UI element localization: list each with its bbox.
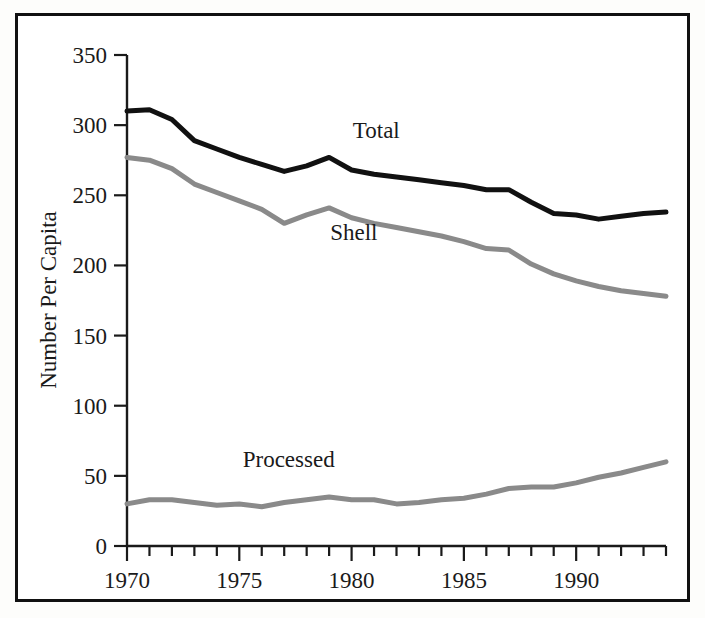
y-tick-label-100: 100 bbox=[73, 394, 108, 419]
y-axis-ticks bbox=[114, 55, 127, 546]
x-tick-label-1975: 1975 bbox=[216, 568, 262, 593]
series-label-shell: Shell bbox=[330, 220, 377, 245]
x-tick-label-1980: 1980 bbox=[329, 568, 375, 593]
line-chart: 050100150200250300350 197019751980198519… bbox=[0, 0, 705, 618]
x-tick-label-1990: 1990 bbox=[553, 568, 599, 593]
y-tick-label-300: 300 bbox=[73, 113, 108, 138]
x-tick-label-1985: 1985 bbox=[441, 568, 487, 593]
series-lines-group bbox=[127, 110, 666, 507]
x-axis-ticks bbox=[127, 546, 666, 561]
y-tick-label-250: 250 bbox=[73, 183, 108, 208]
series-line-processed bbox=[127, 462, 666, 507]
series-label-processed: Processed bbox=[243, 447, 335, 472]
series-annotations-group: TotalShellProcessed bbox=[243, 118, 400, 473]
y-tick-label-0: 0 bbox=[96, 534, 108, 559]
x-axis-tick-labels: 19701975198019851990 bbox=[104, 568, 599, 593]
y-tick-label-50: 50 bbox=[84, 464, 107, 489]
y-tick-label-350: 350 bbox=[73, 43, 108, 68]
series-label-total: Total bbox=[353, 118, 400, 143]
y-axis-tick-labels: 050100150200250300350 bbox=[73, 43, 108, 559]
y-axis-title: Number Per Capita bbox=[36, 211, 61, 389]
y-tick-label-200: 200 bbox=[73, 253, 108, 278]
x-tick-label-1970: 1970 bbox=[104, 568, 150, 593]
y-tick-label-150: 150 bbox=[73, 324, 108, 349]
figure-container: 050100150200250300350 197019751980198519… bbox=[0, 0, 705, 618]
